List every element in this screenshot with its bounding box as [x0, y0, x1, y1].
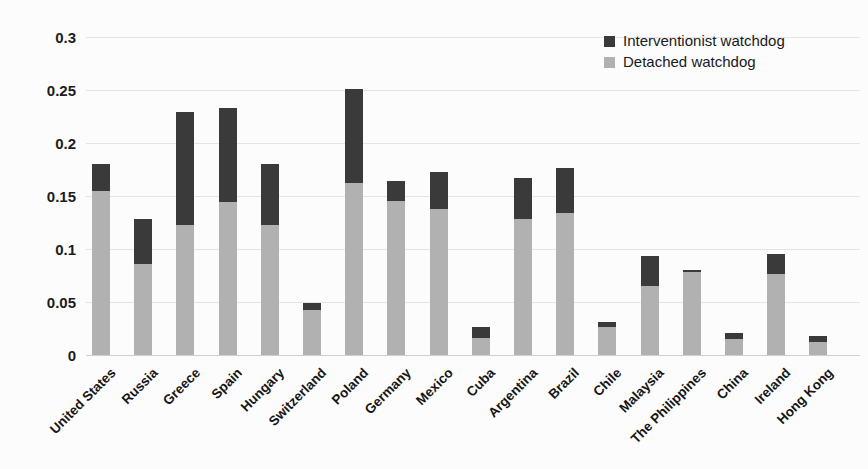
bar-mexico — [430, 172, 448, 355]
bar-segment-detached — [387, 201, 405, 355]
bar-russia — [134, 219, 152, 355]
bar-cuba — [472, 327, 490, 355]
bar-segment-interventionist — [345, 89, 363, 183]
bar-germany — [387, 181, 405, 355]
bar-segment-interventionist — [134, 219, 152, 264]
bar-segment-interventionist — [472, 327, 490, 338]
bar-segment-interventionist — [176, 112, 194, 224]
bar-argentina — [514, 178, 532, 355]
stacked-bar-chart-figure: 00.050.10.150.20.250.3 United StatesRuss… — [0, 0, 868, 469]
bar-segment-interventionist — [92, 164, 110, 191]
bar-segment-detached — [472, 338, 490, 355]
x-axis-line — [86, 355, 860, 356]
gridline — [86, 90, 860, 91]
y-tick-label: 0.25 — [0, 81, 76, 101]
x-tick-label: The Philippines — [627, 364, 710, 447]
bar-spain — [219, 108, 237, 355]
x-tick-label: Spain — [208, 364, 246, 402]
bar-segment-detached — [134, 264, 152, 355]
bar-united-states — [92, 164, 110, 355]
bar-china — [725, 333, 743, 355]
bar-segment-detached — [345, 183, 363, 355]
x-tick-label: Russia — [118, 364, 161, 407]
bar-segment-interventionist — [430, 172, 448, 209]
bar-segment-interventionist — [303, 303, 321, 310]
bar-segment-detached — [303, 310, 321, 355]
x-tick-label: China — [713, 364, 752, 403]
x-tick-label: Brazil — [545, 364, 583, 402]
bar-segment-interventionist — [556, 168, 574, 213]
legend-label: Detached watchdog — [623, 54, 756, 70]
x-tick-label: Cuba — [463, 364, 499, 400]
bar-segment-interventionist — [261, 164, 279, 224]
legend: Interventionist watchdogDetached watchdo… — [604, 33, 785, 70]
bar-segment-detached — [767, 274, 785, 355]
bar-hungary — [261, 164, 279, 355]
y-tick-label: 0.05 — [0, 293, 76, 313]
bar-segment-detached — [219, 202, 237, 355]
legend-swatch-interventionist-icon — [604, 36, 615, 47]
legend-label: Interventionist watchdog — [623, 33, 785, 49]
x-tick-label: Greece — [159, 364, 203, 408]
bar-hong-kong — [809, 336, 827, 355]
gridline — [86, 196, 860, 197]
bar-segment-detached — [430, 209, 448, 355]
bar-segment-detached — [92, 191, 110, 355]
bar-segment-interventionist — [641, 256, 659, 286]
legend-item: Detached watchdog — [604, 54, 785, 70]
y-tick-label: 0.1 — [0, 240, 76, 260]
bar-segment-detached — [176, 225, 194, 355]
bar-malaysia — [641, 256, 659, 355]
gridline — [86, 249, 860, 250]
bar-segment-interventionist — [219, 108, 237, 202]
bar-segment-detached — [598, 327, 616, 355]
y-tick-label: 0 — [0, 346, 76, 366]
bar-segment-interventionist — [387, 181, 405, 201]
bar-segment-interventionist — [767, 254, 785, 274]
gridline — [86, 302, 860, 303]
y-tick-label: 0.15 — [0, 187, 76, 207]
legend-item: Interventionist watchdog — [604, 33, 785, 49]
y-tick-label: 0.3 — [0, 28, 76, 48]
bar-segment-detached — [683, 272, 701, 355]
x-tick-label: Chile — [590, 364, 625, 399]
bar-segment-detached — [261, 225, 279, 355]
bar-segment-detached — [809, 342, 827, 355]
bar-ireland — [767, 254, 785, 355]
bar-brazil — [556, 168, 574, 355]
bar-chile — [598, 322, 616, 355]
bar-segment-interventionist — [514, 178, 532, 219]
bar-switzerland — [303, 303, 321, 355]
bar-greece — [176, 112, 194, 355]
plot-area — [86, 38, 860, 356]
bar-segment-detached — [641, 286, 659, 355]
x-tick-label: United States — [46, 364, 119, 437]
bar-segment-detached — [514, 219, 532, 355]
legend-swatch-detached-icon — [604, 57, 615, 68]
x-tick-label: Germany — [361, 364, 414, 417]
gridline — [86, 143, 860, 144]
bar-segment-detached — [556, 213, 574, 355]
bar-the-philippines — [683, 270, 701, 355]
y-tick-label: 0.2 — [0, 134, 76, 154]
bar-segment-detached — [725, 339, 743, 355]
x-tick-label: Mexico — [412, 364, 456, 408]
bar-poland — [345, 89, 363, 355]
